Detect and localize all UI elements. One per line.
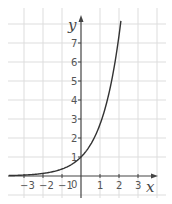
grid-lines — [8, 8, 166, 198]
y-tick-label: 7 — [71, 38, 77, 49]
x-tick-label: 3 — [135, 180, 141, 191]
exponential-graph: −3−2−11231234567 x y 0 — [0, 0, 172, 204]
y-tick-label: 5 — [71, 76, 77, 87]
y-axis-arrow-icon — [79, 15, 84, 22]
x-tick-label: 2 — [116, 180, 122, 191]
x-tick-label: 1 — [97, 180, 103, 191]
origin-label: 0 — [71, 179, 77, 190]
x-axis-label: x — [146, 178, 155, 196]
y-tick-label: 3 — [71, 114, 77, 125]
y-tick-label: 2 — [71, 133, 77, 144]
axes — [8, 15, 158, 198]
x-tick-label: −3 — [20, 180, 35, 191]
x-tick-label: −2 — [39, 180, 54, 191]
exponential-curve — [9, 21, 121, 176]
y-tick-label: 4 — [71, 95, 77, 106]
y-tick-label: 6 — [71, 57, 77, 68]
y-axis-label: y — [67, 16, 77, 34]
